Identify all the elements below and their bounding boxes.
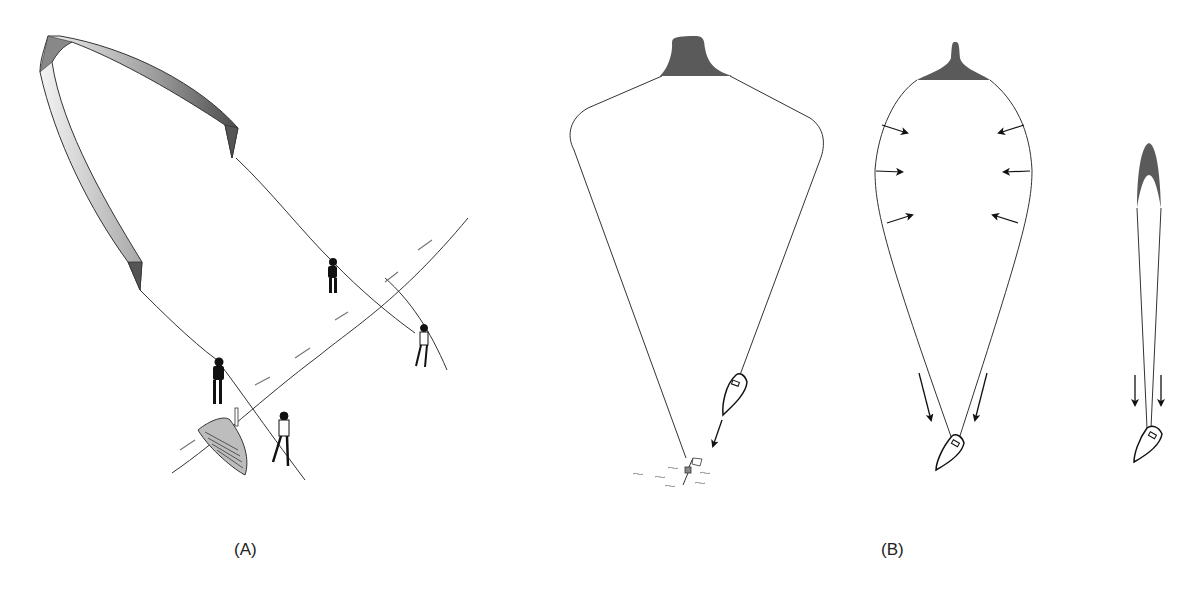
panel-label-b: (B) [881, 540, 904, 560]
pull-arrows [919, 373, 987, 420]
rowing-boat [198, 408, 247, 475]
kite-line-right [236, 158, 415, 333]
drift-arrow [713, 420, 722, 446]
figure-canvas [0, 0, 1201, 592]
person-dark-1 [328, 258, 337, 293]
stage-1-canopy [570, 36, 823, 458]
pull-arrows [1135, 375, 1161, 405]
stage-1-boat [713, 374, 747, 446]
kite-canopy [40, 36, 238, 290]
stage-2-boat [936, 435, 964, 470]
panel-label-a: (A) [234, 540, 257, 560]
panel-b [570, 36, 1162, 487]
stage-1-buoy [633, 458, 710, 487]
person-white-1 [416, 325, 428, 368]
person-dark-2 [213, 358, 224, 405]
stage-3-boat [1134, 426, 1162, 462]
panel-a [40, 36, 468, 480]
stage-2-canopy [875, 42, 1032, 445]
water-ripples [633, 467, 710, 486]
river-bank [385, 278, 447, 370]
inward-arrows [876, 125, 1030, 223]
stage-3-canopy [1135, 143, 1161, 428]
person-white-2 [273, 412, 289, 466]
